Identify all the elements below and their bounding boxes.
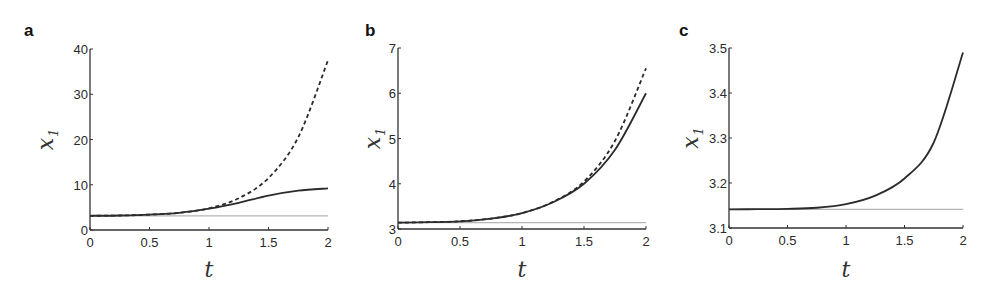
series-dashed-line: [90, 60, 328, 215]
panel-label: c: [679, 21, 688, 40]
x-tick-label: 2: [959, 233, 966, 248]
x-tick-label: 1: [842, 233, 849, 248]
y-tick-label: 7: [389, 41, 396, 56]
panel-a: a00.511.52010203040tx1: [24, 21, 332, 282]
y-axis-label: x1: [360, 128, 388, 150]
x-tick-label: 1.5: [259, 235, 277, 250]
x-tick-label: 0.5: [778, 233, 796, 248]
y-tick-label: 6: [389, 86, 396, 101]
y-axis-label: x1: [678, 127, 706, 149]
y-axis-label: x1: [33, 129, 61, 151]
series-solid-line: [398, 93, 646, 222]
x-axis-label: t: [518, 257, 527, 282]
x-tick-label: 1: [518, 234, 525, 249]
x-axis-label: t: [842, 257, 851, 282]
figure: a00.511.52010203040tx1b00.511.5234567tx1…: [0, 0, 1008, 295]
x-tick-label: 1.5: [895, 233, 913, 248]
y-tick-label: 20: [74, 133, 88, 148]
x-axis-label: t: [205, 257, 214, 282]
x-tick-label: 2: [324, 235, 331, 250]
x-tick-label: 2: [642, 234, 649, 249]
x-tick-label: 0.5: [140, 235, 158, 250]
y-tick-label: 4: [389, 177, 396, 192]
x-tick-label: 1: [205, 235, 212, 250]
y-tick-label: 40: [74, 42, 88, 57]
series-solid-line: [729, 53, 963, 210]
series-dashed-line: [398, 68, 646, 222]
series-solid-line: [90, 188, 328, 215]
panel-label: a: [24, 21, 34, 40]
y-tick-label: 3.3: [709, 131, 727, 146]
x-tick-label: 1.5: [575, 234, 593, 249]
y-tick-label: 3.4: [709, 86, 727, 101]
y-tick-label: 10: [74, 178, 88, 193]
panel-c: c00.511.523.13.23.33.43.5tx1: [678, 21, 967, 282]
y-tick-label: 3.5: [709, 41, 727, 56]
y-tick-label: 3.1: [709, 221, 727, 236]
x-tick-label: 0.5: [451, 234, 469, 249]
panel-b: b00.511.5234567tx1: [360, 21, 650, 282]
y-tick-label: 5: [389, 132, 396, 147]
panel-label: b: [365, 21, 375, 40]
y-tick-label: 3: [389, 222, 396, 237]
y-tick-label: 3.2: [709, 176, 727, 191]
y-tick-label: 0: [81, 223, 88, 238]
y-tick-label: 30: [74, 87, 88, 102]
